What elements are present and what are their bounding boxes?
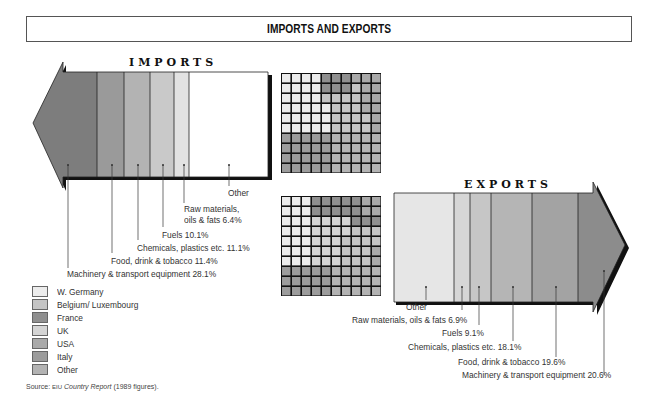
imports-arrow [33, 62, 272, 268]
exports-label-fuels: Fuels 9.1% [442, 327, 484, 338]
legend-swatch [32, 312, 48, 323]
legend-item-italy: Italy [32, 350, 149, 363]
legend-item-france: France [32, 311, 149, 324]
legend-item-belgium-luxembourg: Belgium/ Luxembourg [32, 298, 149, 311]
legend-swatch [32, 351, 48, 362]
legend: W. Germany Belgium/ Luxembourg France UK… [32, 285, 149, 376]
exports-label-machinery: Machinery & transport equipment 20.6% [462, 369, 611, 380]
imports-label-food: Food, drink & tobacco 11.4% [111, 255, 218, 266]
legend-item-usa: USA [32, 337, 149, 350]
imports-label-raw-materials-line2: oils & fats 6.4% [184, 214, 242, 225]
exports-label-other: Other [406, 301, 427, 312]
imports-label-fuels: Fuels 10.1% [162, 229, 208, 240]
legend-swatch [32, 338, 48, 349]
imports-label-other: Other [228, 187, 249, 198]
imports-label-raw-materials-line1: Raw materials, [184, 203, 239, 214]
exports-title: EXPORTS [464, 178, 552, 191]
legend-item-other: Other [32, 363, 149, 376]
source-note: Source: EIU Country Report (1989 figures… [26, 383, 159, 390]
imports-label-machinery: Machinery & transport equipment 28.1% [67, 268, 216, 279]
exports-label-food: Food, drink & tobacco 19.6% [458, 356, 565, 367]
legend-swatch [32, 325, 48, 336]
legend-swatch [32, 364, 48, 375]
legend-item-w-germany: W. Germany [32, 285, 149, 298]
legend-swatch [32, 299, 48, 310]
imports-grid [281, 73, 381, 173]
imports-title: IMPORTS [129, 56, 217, 69]
imports-label-chemicals: Chemicals, plastics etc. 11.1% [137, 242, 250, 253]
exports-grid [281, 196, 381, 296]
exports-label-chemicals: Chemicals, plastics etc. 18.1% [408, 341, 521, 352]
legend-item-uk: UK [32, 324, 149, 337]
exports-label-raw-materials: Raw materials, oils & fats 6.9% [352, 314, 467, 325]
legend-swatch [32, 286, 48, 297]
